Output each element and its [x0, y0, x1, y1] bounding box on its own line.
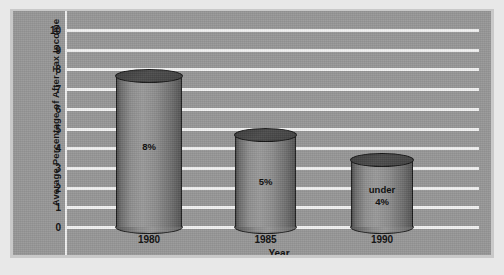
y-tick-10: 10 — [39, 25, 61, 36]
x-category-1985: 1985 — [235, 234, 296, 245]
y-tick-9: 9 — [39, 44, 61, 55]
y-tick-0: 0 — [39, 222, 61, 233]
y-tick-1: 1 — [39, 202, 61, 213]
bar-1985-value-label: 5% — [235, 176, 296, 188]
bar-1980-value-label: 8% — [116, 141, 182, 153]
x-axis-title: Year — [67, 248, 491, 255]
chart-panel: Average Percentage of After-Tax Income 1… — [13, 11, 491, 255]
y-tick-5: 5 — [39, 123, 61, 134]
bar-1990-top — [350, 153, 414, 167]
bar-1990-value-label-line2: 4% — [351, 196, 413, 208]
bar-1990-value-label: under — [351, 184, 413, 196]
y-tick-2: 2 — [39, 182, 61, 193]
y-tick-3: 3 — [39, 162, 61, 173]
y-tick-6: 6 — [39, 103, 61, 114]
gridline-10 — [67, 29, 479, 32]
bar-1980-top — [115, 69, 183, 83]
x-category-1990: 1990 — [351, 234, 413, 245]
bar-1980[interactable]: 8% — [116, 69, 182, 227]
y-tick-4: 4 — [39, 143, 61, 154]
bar-1985[interactable]: 5% — [235, 128, 296, 227]
x-category-1980: 1980 — [116, 234, 182, 245]
y-tick-7: 7 — [39, 84, 61, 95]
gridline-9 — [67, 49, 479, 52]
bar-1990[interactable]: under 4% — [351, 153, 413, 227]
bar-1985-top — [234, 128, 297, 142]
y-tick-8: 8 — [39, 64, 61, 75]
chart-figure: Average Percentage of After-Tax Income 1… — [0, 0, 504, 275]
y-axis-tick-labels: 10 9 8 7 6 5 4 3 2 1 0 — [35, 11, 61, 255]
plot-area: 8% 1980 5% 1985 under 4% 1990 Year — [67, 11, 491, 255]
